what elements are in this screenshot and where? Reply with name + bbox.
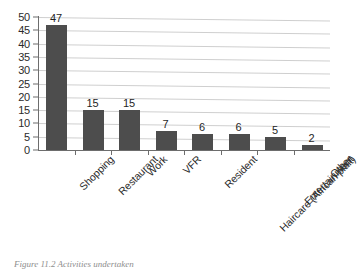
bar-group: 6 <box>184 17 220 150</box>
y-axis-tick-label: 40 <box>18 38 30 49</box>
bar-group: 15 <box>111 17 147 150</box>
y-axis-line <box>38 16 39 151</box>
figure-caption: Figure 11.2 Activities undertaken <box>14 259 324 269</box>
y-axis-tick-label: 50 <box>18 12 30 23</box>
bar-value-label: 6 <box>184 121 220 133</box>
y-axis-tick-label: 25 <box>18 78 30 89</box>
y-axis-tick-label: 45 <box>18 25 30 36</box>
y-axis-tick-label: 0 <box>24 145 30 156</box>
y-axis-tick-mark <box>33 136 38 137</box>
y-axis-tick-mark <box>33 30 38 31</box>
bars-container: 47151576652 <box>38 17 330 150</box>
bar-group: 15 <box>75 17 111 150</box>
y-axis-tick-mark <box>33 17 38 18</box>
y-axis-tick-label: 5 <box>24 131 30 142</box>
bar-group: 6 <box>221 17 257 150</box>
y-axis-tick-mark <box>33 123 38 124</box>
bar-group: 5 <box>257 17 293 150</box>
bar[interactable] <box>229 134 250 150</box>
y-axis-tick-label: 15 <box>18 105 30 116</box>
x-axis-category-label: Shopping <box>77 153 116 192</box>
y-axis-tick-label: 30 <box>18 65 30 76</box>
y-axis-tick-mark <box>33 56 38 57</box>
bar-value-label: 47 <box>38 12 74 24</box>
bar-group: 7 <box>148 17 184 150</box>
x-axis-labels: ShoppingRestaurantWorkVFRResidentHaircar… <box>38 153 330 253</box>
y-axis-tick-mark <box>33 70 38 71</box>
y-axis-tick-mark <box>33 110 38 111</box>
bar[interactable] <box>46 25 67 150</box>
bar-value-label: 15 <box>111 97 147 109</box>
bar-value-label: 5 <box>257 124 293 136</box>
bar[interactable] <box>192 134 213 150</box>
y-axis-tick-label: 35 <box>18 51 30 62</box>
bar-value-label: 6 <box>221 121 257 133</box>
bar[interactable] <box>83 110 104 150</box>
bar[interactable] <box>119 110 140 150</box>
y-axis-tick-mark <box>33 43 38 44</box>
x-axis-category-label: Resident <box>222 153 259 190</box>
y-axis-tick-label: 10 <box>18 118 30 129</box>
bar-group: 2 <box>294 17 330 150</box>
bar-value-label: 7 <box>148 118 184 130</box>
bar-value-label: 15 <box>75 97 111 109</box>
y-axis-ticks: 50454035302520151050 <box>0 17 38 150</box>
bar[interactable] <box>156 131 177 150</box>
y-axis-tick-mark <box>33 96 38 97</box>
y-axis-tick-mark <box>33 83 38 84</box>
bar-group: 47 <box>38 17 74 150</box>
bar[interactable] <box>265 137 286 150</box>
bar-value-label: 2 <box>294 132 330 144</box>
y-axis-tick-label: 20 <box>18 91 30 102</box>
plot-area: 47151576652 <box>38 17 330 150</box>
x-axis-category-label: VFR <box>180 153 203 176</box>
